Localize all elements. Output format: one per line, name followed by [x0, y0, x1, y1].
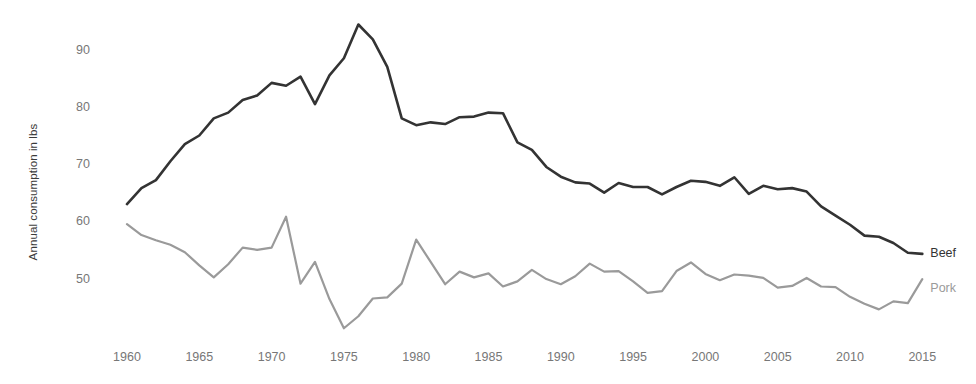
plot-area	[0, 0, 976, 384]
line-pork	[127, 217, 922, 329]
series-label-beef: Beef	[930, 246, 956, 260]
beef-pork-consumption-chart: Annual consumption in lbs 5060708090 196…	[0, 0, 976, 384]
series-label-pork: Pork	[930, 281, 956, 295]
series-lines	[127, 25, 922, 329]
line-beef	[127, 25, 922, 254]
